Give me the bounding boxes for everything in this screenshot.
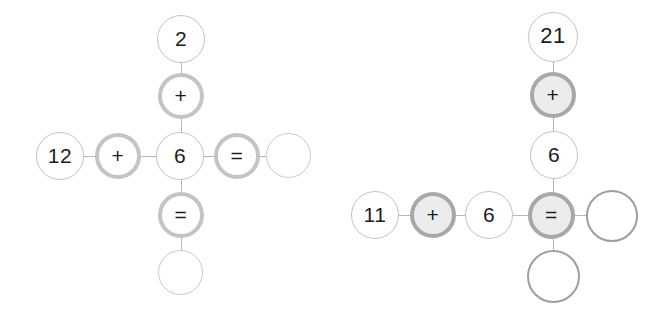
node-label: 21: [540, 25, 565, 47]
puzzle-canvas: 2+12+6==21+611+6=: [0, 0, 663, 309]
node-label: 11: [364, 204, 387, 225]
node-label: +: [427, 204, 440, 225]
node-operator-plus[interactable]: +: [530, 72, 576, 118]
node-label: 6: [483, 204, 495, 225]
edge-6-to-equals-h: [513, 215, 529, 216]
node-value-11[interactable]: 11: [351, 191, 399, 239]
edge-plus-to-6: [553, 117, 554, 132]
node-value-21[interactable]: 21: [528, 12, 578, 62]
cross-equation-right: 21+611+6=: [0, 0, 663, 309]
node-label: +: [547, 84, 560, 105]
node-label: 6: [548, 144, 560, 165]
node-operator-equals[interactable]: =: [528, 192, 575, 239]
node-value-6[interactable]: 6: [530, 131, 578, 179]
node-value-6[interactable]: 6: [465, 191, 513, 239]
node-empty-answer[interactable]: [527, 250, 580, 303]
edge-6-to-equals: [553, 178, 554, 193]
node-empty-answer[interactable]: [586, 190, 638, 242]
node-operator-plus[interactable]: +: [410, 192, 456, 238]
node-label: =: [545, 204, 558, 225]
